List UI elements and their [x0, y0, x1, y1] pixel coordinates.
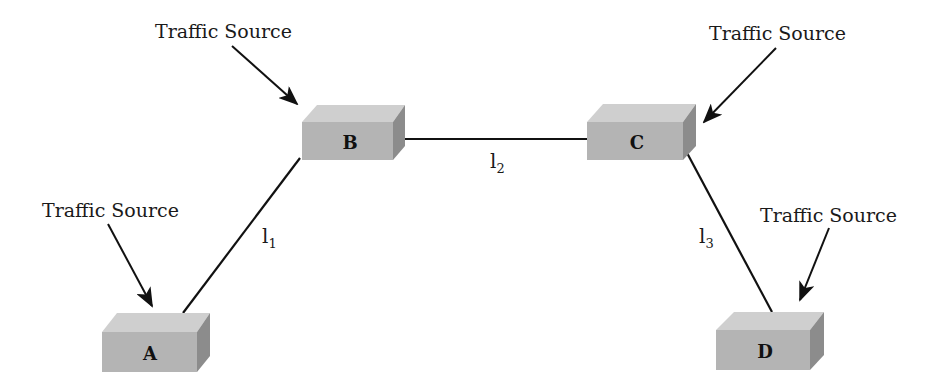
node-label-c: C: [630, 132, 644, 153]
node-d: D: [716, 312, 824, 370]
network-diagram: l1 l2 l3 A B C D Traffic Source Traffic …: [0, 0, 948, 387]
link-label-l3: l3: [699, 224, 714, 251]
traffic-source-label: Traffic Source: [42, 199, 179, 221]
link-label-l1: l1: [262, 224, 277, 251]
node-b: B: [302, 105, 405, 160]
traffic-source-label: Traffic Source: [760, 204, 897, 226]
traffic-source-label: Traffic Source: [155, 20, 292, 42]
traffic-source-a: Traffic Source: [42, 199, 179, 306]
node-label-b: B: [342, 132, 357, 153]
traffic-source-c: Traffic Source: [704, 22, 846, 122]
arrow-icon: [108, 224, 152, 306]
node-label-a: A: [142, 343, 158, 364]
node-c: C: [587, 104, 696, 160]
node-label-d: D: [757, 341, 773, 362]
link-l1: [183, 158, 300, 313]
traffic-source-b: Traffic Source: [155, 20, 297, 104]
arrow-icon: [704, 48, 776, 122]
traffic-source-d: Traffic Source: [760, 204, 897, 300]
arrow-icon: [232, 46, 297, 104]
link-label-l2: l2: [490, 149, 505, 176]
traffic-source-label: Traffic Source: [709, 22, 846, 44]
node-a: A: [102, 313, 210, 372]
arrow-icon: [800, 228, 829, 300]
